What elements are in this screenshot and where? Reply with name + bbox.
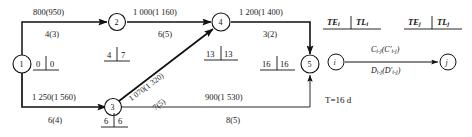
legend-tl-j: TLj <box>437 17 449 27</box>
legend-te-i-subscript: i <box>338 21 340 27</box>
legend-dur-close: ) <box>398 66 401 75</box>
legend-cost-cprime: (C′ <box>382 45 392 54</box>
node-5-tl: 16 <box>280 59 289 69</box>
node-2-tl: 7 <box>121 50 125 60</box>
edge-1-2 <box>22 22 107 55</box>
edge-1-2-cost: 800(950) <box>33 8 64 17</box>
node-1-label: 1 <box>20 60 24 69</box>
legend-te-i-text: TE <box>327 17 338 27</box>
legend-te-i: TEi <box>327 17 340 27</box>
node-4-label: 4 <box>219 18 223 27</box>
legend-tl-j-subscript: j <box>447 21 449 27</box>
edge-1-3-cost: 1 250(1 560) <box>32 93 76 102</box>
legend-tl-j-text: TL <box>437 17 447 27</box>
legend-edge-cost-formula: Ci-j(C′i-j) <box>371 45 399 54</box>
node-4-tl: 13 <box>224 49 233 59</box>
node-3-te: 6 <box>104 116 108 126</box>
legend-te-j-text: TE <box>408 17 419 27</box>
node-1-tl: 0 <box>50 59 54 69</box>
node-1-te: 0 <box>36 59 40 69</box>
total-duration-label: T=16 d <box>325 95 351 105</box>
edge-2-4-duration: 6(5) <box>158 30 172 39</box>
legend-tl-i-text: TL <box>356 17 366 27</box>
node-3-label: 3 <box>111 103 115 112</box>
legend-edge-duration-formula: Di-j(D′i-j) <box>371 66 400 75</box>
node-2-label: 2 <box>115 18 119 27</box>
node-5-te: 16 <box>262 59 271 69</box>
node-3-tl: 6 <box>118 116 122 126</box>
legend-node-i <box>328 54 344 70</box>
legend-node-i-label: i <box>334 58 336 67</box>
edge-1-2-duration: 4(3) <box>45 30 59 39</box>
edge-4-5-duration: 3(2) <box>263 30 277 39</box>
node-4-te: 13 <box>206 49 215 59</box>
legend-node-j-label: j <box>446 58 448 67</box>
node-5-label: 5 <box>308 60 312 69</box>
edge-3-5-cost: 900(1 530) <box>205 93 243 102</box>
node-2-te: 4 <box>107 50 111 60</box>
edge-1-3-duration: 6(4) <box>48 116 62 125</box>
legend-tl-i: TLi <box>356 17 368 27</box>
edge-2-4-cost: 1 000(1 160) <box>133 8 177 17</box>
legend-te-j-subscript: j <box>419 21 421 27</box>
legend-node-j <box>440 54 456 70</box>
legend-dur-dprime: (D′ <box>382 66 392 75</box>
legend-te-j: TEj <box>408 17 421 27</box>
legend-cost-close: ) <box>397 45 400 54</box>
edge-4-5-cost: 1 200(1 400) <box>239 8 283 17</box>
edge-3-5-duration: 8(5) <box>226 116 240 125</box>
network-diagram-canvas: 1 2 3 4 5 0 0 4 7 6 6 13 13 16 16 800(95… <box>0 0 472 137</box>
legend-tl-i-subscript: i <box>366 21 368 27</box>
